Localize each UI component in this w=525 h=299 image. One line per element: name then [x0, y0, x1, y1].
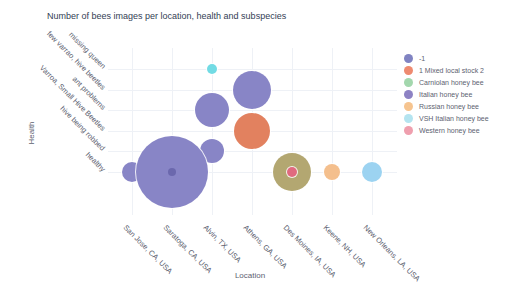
y-axis-title: Health [27, 121, 36, 144]
chart-bubble[interactable] [207, 64, 217, 74]
legend-label: -1 [419, 55, 425, 62]
legend-label: Carniolan honey bee [419, 79, 484, 86]
legend-swatch-icon [404, 114, 413, 123]
x-axis-title: Location [0, 271, 500, 280]
legend-item[interactable]: Carniolan honey bee [404, 78, 489, 87]
chart-bubble[interactable] [195, 93, 229, 127]
legend-swatch-icon [404, 78, 413, 87]
chart-bubble[interactable] [287, 167, 297, 177]
chart-bubble[interactable] [168, 168, 176, 176]
horizontal-gridline [108, 110, 397, 111]
legend-item[interactable]: -1 [404, 54, 489, 63]
legend-swatch-icon [404, 66, 413, 75]
y-tick-label: healthy [84, 150, 107, 173]
x-tick-label: Keene, NH, USA [322, 223, 368, 269]
legend-label: Russian honey bee [419, 103, 479, 110]
legend-label: 1 Mixed local stock 2 [419, 67, 484, 74]
chart-bubble[interactable] [234, 113, 270, 149]
legend-label: Italian honey bee [419, 91, 472, 98]
x-tick-label: Alvin, TX, USA [202, 223, 243, 264]
legend-swatch-icon [404, 90, 413, 99]
legend: -11 Mixed local stock 2Carniolan honey b… [404, 54, 489, 135]
legend-label: Western honey bee [419, 127, 480, 134]
legend-swatch-icon [404, 126, 413, 135]
legend-item[interactable]: Western honey bee [404, 126, 489, 135]
horizontal-gridline [108, 69, 397, 70]
legend-swatch-icon [404, 54, 413, 63]
legend-item[interactable]: Russian honey bee [404, 102, 489, 111]
chart-bubble[interactable] [233, 71, 271, 109]
legend-item[interactable]: VSH Italian honey bee [404, 114, 489, 123]
bubble-chart: Number of bees images per location, heal… [0, 0, 525, 299]
legend-item[interactable]: Italian honey bee [404, 90, 489, 99]
legend-item[interactable]: 1 Mixed local stock 2 [404, 66, 489, 75]
chart-title: Number of bees images per location, heal… [47, 11, 286, 21]
legend-swatch-icon [404, 102, 413, 111]
legend-label: VSH Italian honey bee [419, 115, 489, 122]
chart-bubble[interactable] [324, 164, 340, 180]
chart-bubble[interactable] [362, 162, 382, 182]
